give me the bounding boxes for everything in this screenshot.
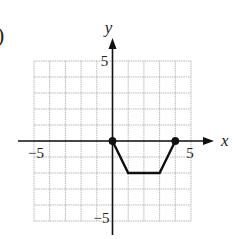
x-tick-label: 5 xyxy=(186,145,194,161)
graph-figure: yx−555−5 xyxy=(0,0,236,239)
x-axis-arrow-icon xyxy=(203,137,214,145)
x-axis-label: x xyxy=(220,131,229,150)
endpoint-dot xyxy=(109,137,116,144)
endpoint-dot xyxy=(172,137,179,144)
y-tick-label: −5 xyxy=(94,210,110,226)
x-tick-label: −5 xyxy=(28,145,44,161)
y-axis-arrow-icon xyxy=(109,38,117,49)
problem-marker: ) xyxy=(0,22,4,48)
y-axis-label: y xyxy=(103,18,113,37)
y-tick-label: 5 xyxy=(101,53,109,69)
